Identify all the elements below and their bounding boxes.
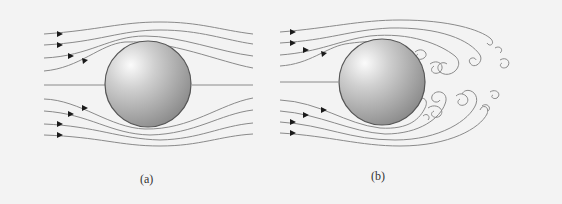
- vortex-wake: [415, 47, 509, 120]
- panel-a-label: (a): [140, 172, 153, 187]
- panel-b: [280, 20, 509, 146]
- panel-b-label: (b): [371, 169, 385, 184]
- sphere-a: [105, 41, 191, 127]
- flow-diagram: [0, 0, 562, 204]
- sphere-b: [339, 39, 425, 125]
- panel-a: [44, 22, 253, 146]
